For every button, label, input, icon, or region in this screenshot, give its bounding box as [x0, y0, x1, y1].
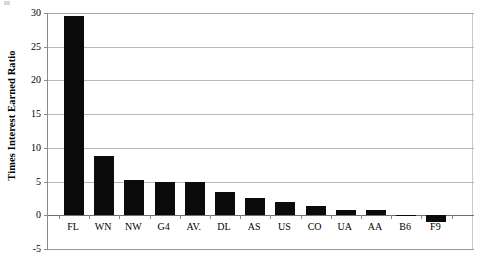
- x-axis-tick-labels: FLWNNWG4AV.DLASUSCOUAAAB6F9: [47, 222, 473, 238]
- x-tick-label-WN: WN: [86, 222, 120, 232]
- x-tick-label-B6: B6: [388, 222, 422, 232]
- gridline--5: [48, 249, 474, 250]
- x-tick-mark-5: [240, 215, 241, 219]
- bar-AA: [366, 210, 386, 215]
- x-tick-mark-4: [210, 215, 211, 219]
- bar-CO: [306, 206, 326, 215]
- bar-AV: [185, 182, 205, 216]
- bar-UA: [336, 210, 356, 215]
- x-tick-mark-11: [421, 215, 422, 219]
- y-tick-mark--5: [44, 249, 48, 250]
- x-tick-label-DL: DL: [207, 222, 241, 232]
- y-tick-label-30: 30: [11, 8, 41, 18]
- x-tick-mark-7: [301, 215, 302, 219]
- y-tick-label-25: 25: [11, 42, 41, 52]
- x-tick-mark-3: [180, 215, 181, 219]
- x-tick-label-F9: F9: [418, 222, 452, 232]
- x-tick-label-AV: AV.: [177, 222, 211, 232]
- x-tick-mark-12: [452, 215, 453, 219]
- bar-FL: [64, 16, 84, 215]
- y-tick-label-5: 5: [11, 177, 41, 187]
- x-tick-mark-1: [119, 215, 120, 219]
- plot-area: [47, 13, 473, 249]
- bar-chart-figure: Times Interest Earned Ratio 302520151050…: [0, 0, 483, 263]
- bars-group: [48, 13, 474, 249]
- y-tick-label-10: 10: [11, 143, 41, 153]
- x-tick-mark-start: [59, 215, 60, 219]
- y-tick-label--5: -5: [11, 244, 41, 254]
- bar-WN: [94, 156, 114, 215]
- x-tick-mark-2: [150, 215, 151, 219]
- x-tick-label-NW: NW: [116, 222, 150, 232]
- x-tick-mark-6: [270, 215, 271, 219]
- x-tick-mark-10: [391, 215, 392, 219]
- bar-US: [275, 202, 295, 215]
- x-tick-label-US: US: [267, 222, 301, 232]
- bar-B6: [396, 215, 416, 216]
- x-tick-label-G4: G4: [147, 222, 181, 232]
- bar-NW: [124, 180, 144, 215]
- x-tick-mark-0: [89, 215, 90, 219]
- x-tick-mark-9: [361, 215, 362, 219]
- x-tick-label-UA: UA: [328, 222, 362, 232]
- bar-G4: [155, 182, 175, 216]
- y-tick-label-20: 20: [11, 75, 41, 85]
- y-tick-label-15: 15: [11, 109, 41, 119]
- x-tick-label-FL: FL: [56, 222, 90, 232]
- bar-DL: [215, 192, 235, 216]
- x-tick-mark-8: [331, 215, 332, 219]
- x-tick-label-AA: AA: [358, 222, 392, 232]
- x-tick-label-CO: CO: [298, 222, 332, 232]
- bar-AS: [245, 198, 265, 215]
- x-tick-label-AS: AS: [237, 222, 271, 232]
- y-tick-label-0: 0: [11, 210, 41, 220]
